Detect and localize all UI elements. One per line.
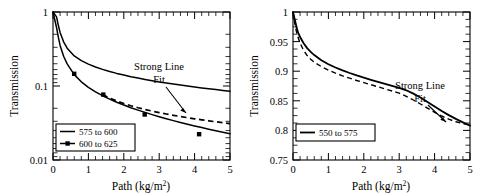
x-axis-title-left-main: Path (kg/m [112,180,163,193]
x-tick-label-left-1: 1 [86,164,91,175]
x-axis-title-right-tail: ) [406,180,410,193]
x-tick-label-left-3: 3 [157,164,162,175]
chart-panel-right: Strong Line Fit 550 to 575 1 0.95 0.9 0.… [243,0,485,196]
x-tick-label-left-4: 4 [192,164,198,175]
x-axis-title-right-main: Path (kg/m [352,180,403,193]
x-axis-title-left-tail: ) [166,180,170,193]
x-tick-label-right-2: 2 [361,164,366,175]
y-tick-label-right-0: 1 [283,7,288,18]
y-tick-label-right-5: 0.75 [270,155,288,166]
right-chart-svg: Strong Line Fit 550 to 575 1 0.95 0.9 0.… [243,0,485,196]
x-tick-label-left-2: 2 [121,164,126,175]
legend-label-575-to-600: 575 to 600 [79,127,118,137]
legend-marker-600-to-625 [65,141,69,145]
y-tick-label-right-4: 0.8 [275,125,288,136]
annotation-strong-line-fit-line1-left: Strong Line [134,61,184,72]
x-tick-label-right-4: 4 [432,164,438,175]
annotation-strong-line-fit-line2-left: Fit [153,74,165,85]
legend-label-550-to-575: 550 to 575 [319,128,358,138]
annotation-strong-line-fit-line1-right: Strong Line [395,80,445,91]
annotation-strong-line-fit-line2-right: Fit [414,93,426,104]
x-tick-label-left-5: 5 [227,164,232,175]
y-tick-label-left-0: 1 [43,7,48,18]
figure-container: Strong Line Fit 575 to 600 600 to 625 1 … [0,0,485,196]
x-tick-label-right-3: 3 [397,164,402,175]
y-tick-label-right-1: 0.95 [270,37,288,48]
x-tick-label-left-0: 0 [50,164,55,175]
y-tick-label-left-1: 0.1 [35,81,48,92]
left-chart-svg: Strong Line Fit 575 to 600 600 to 625 1 … [0,0,242,196]
y-tick-label-right-2: 0.9 [275,66,288,77]
legend-label-600-to-625: 600 to 625 [79,139,118,149]
x-tick-label-right-5: 5 [467,164,472,175]
legend-right[interactable]: 550 to 575 [296,124,375,141]
x-axis-title-right: Path (kg/m2) [352,179,411,193]
x-tick-label-right-1: 1 [326,164,331,175]
y-axis-title-left: Transmission [8,55,20,117]
x-axis-title-left: Path (kg/m2) [112,179,171,193]
x-tick-label-right-0: 0 [290,164,295,175]
legend-left[interactable]: 575 to 600 600 to 625 [56,124,135,151]
y-tick-label-left-2: 0.01 [30,155,48,166]
y-tick-label-right-3: 0.85 [270,96,288,107]
chart-panel-left: Strong Line Fit 575 to 600 600 to 625 1 … [0,0,242,196]
y-axis-title-right: Transmission [248,55,260,117]
